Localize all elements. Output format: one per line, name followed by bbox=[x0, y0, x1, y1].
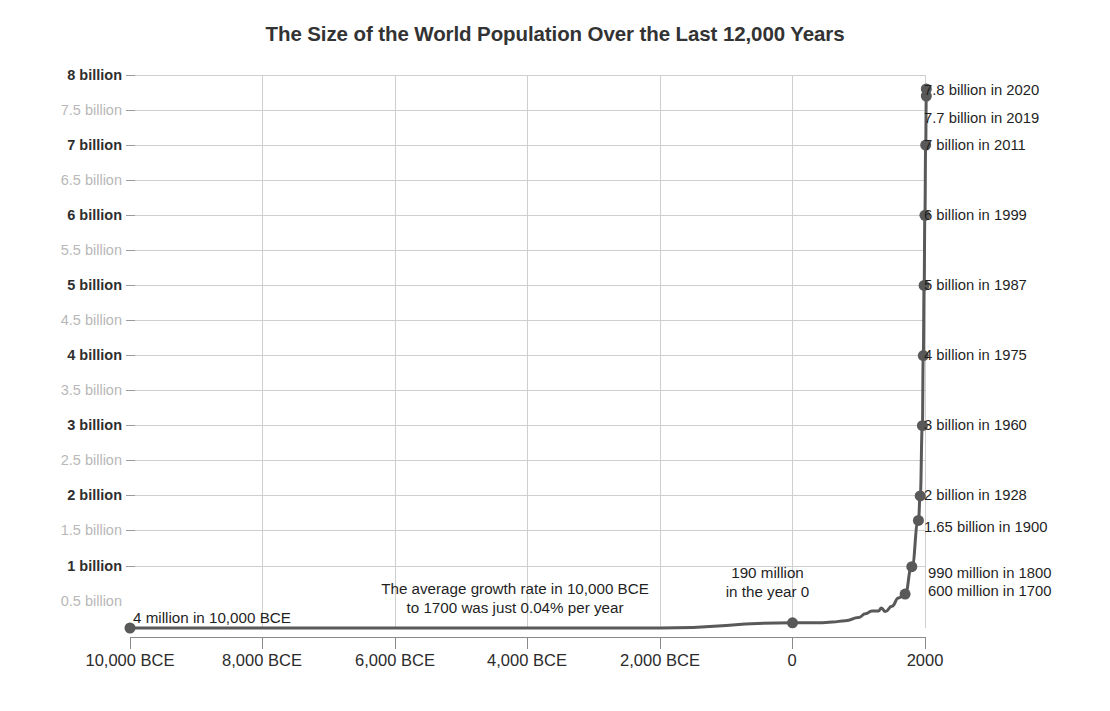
data-point-callout: 2 billion in 1928 bbox=[924, 487, 1027, 503]
data-point-callout: 7.8 billion in 2020 bbox=[924, 82, 1039, 98]
y-axis-tick-label: 6 billion bbox=[2, 208, 122, 223]
data-point-callout: 4 billion in 1975 bbox=[924, 347, 1027, 363]
y-axis-tick-label: 4 billion bbox=[2, 348, 122, 363]
gridline-vertical bbox=[660, 75, 661, 628]
x-axis-tick-label: 6,000 BCE bbox=[355, 651, 435, 669]
gridline-vertical bbox=[527, 75, 528, 628]
year-zero-annotation: 190 million in the year 0 bbox=[680, 563, 855, 601]
data-point-callout: 600 million in 1700 bbox=[928, 583, 1051, 599]
y-axis-tick-label: 3.5 billion bbox=[2, 383, 122, 398]
y-axis-tick-mark bbox=[126, 495, 135, 496]
data-point-callout: 1.65 billion in 1900 bbox=[924, 519, 1047, 535]
y-axis-tick-mark bbox=[126, 110, 135, 111]
data-point-callout: 7 billion in 2011 bbox=[924, 137, 1026, 153]
y-axis-tick-mark bbox=[126, 285, 135, 286]
y-axis-tick-mark bbox=[126, 390, 135, 391]
y-axis-tick-label: 5.5 billion bbox=[2, 243, 122, 258]
x-axis-tick-label: 4,000 BCE bbox=[487, 651, 567, 669]
y-axis-tick-label: 7 billion bbox=[2, 138, 122, 153]
x-axis-tick-mark bbox=[660, 637, 661, 649]
x-axis-tick-mark bbox=[395, 637, 396, 649]
year-zero-line-1: 190 million bbox=[680, 563, 855, 582]
gridline-vertical bbox=[792, 75, 793, 628]
y-axis-tick-label: 2.5 billion bbox=[2, 453, 122, 468]
y-axis-tick-mark bbox=[126, 180, 135, 181]
x-axis-tick-mark bbox=[527, 637, 528, 649]
y-axis-tick-label: 1 billion bbox=[2, 559, 122, 574]
data-point-callout: 5 billion in 1987 bbox=[924, 277, 1027, 293]
y-axis-tick-label: 0.5 billion bbox=[2, 594, 122, 609]
y-axis-tick-label: 7.5 billion bbox=[2, 103, 122, 118]
y-axis-tick-mark bbox=[126, 460, 135, 461]
y-axis-tick-label: 8 billion bbox=[2, 68, 122, 83]
start-point-annotation: 4 million in 10,000 BCE bbox=[133, 608, 291, 627]
y-axis-tick-label: 4.5 billion bbox=[2, 313, 122, 328]
x-axis-tick-label: 10,000 BCE bbox=[86, 651, 175, 669]
x-axis-tick-mark bbox=[792, 637, 793, 649]
population-chart: The Size of the World Population Over th… bbox=[0, 0, 1110, 711]
y-axis-tick-mark bbox=[126, 530, 135, 531]
gridline-vertical bbox=[262, 75, 263, 628]
x-axis-tick-label: 8,000 BCE bbox=[222, 651, 302, 669]
data-point-callout: 990 million in 1800 bbox=[928, 565, 1051, 581]
y-axis-tick-mark bbox=[126, 355, 135, 356]
y-axis-tick-mark bbox=[126, 250, 135, 251]
data-point-callout: 3 billion in 1960 bbox=[924, 417, 1027, 433]
x-axis-tick-mark bbox=[925, 637, 926, 649]
x-axis-tick-mark bbox=[262, 637, 263, 649]
y-axis-labels: 8 billion7.5 billion7 billion6.5 billion… bbox=[0, 0, 122, 711]
data-point-callout: 7.7 billion in 2019 bbox=[924, 110, 1039, 126]
y-axis-tick-mark bbox=[126, 566, 135, 567]
growth-rate-annotation: The average growth rate in 10,000 BCE to… bbox=[300, 579, 730, 617]
gridline-vertical bbox=[395, 75, 396, 628]
growth-rate-line-2: to 1700 was just 0.04% per year bbox=[300, 598, 730, 617]
y-axis-tick-label: 2 billion bbox=[2, 488, 122, 503]
growth-rate-line-1: The average growth rate in 10,000 BCE bbox=[300, 579, 730, 598]
y-axis-tick-label: 1.5 billion bbox=[2, 523, 122, 538]
y-axis-tick-label: 6.5 billion bbox=[2, 173, 122, 188]
chart-title: The Size of the World Population Over th… bbox=[0, 22, 1110, 46]
y-axis-tick-mark bbox=[126, 75, 135, 76]
x-axis-tick-label: 2000 bbox=[907, 651, 944, 669]
x-axis-tick-label: 0 bbox=[787, 651, 796, 669]
y-axis-tick-label: 3 billion bbox=[2, 418, 122, 433]
y-axis-tick-mark bbox=[126, 320, 135, 321]
y-axis-tick-mark bbox=[126, 215, 135, 216]
data-point-callout: 6 billion in 1999 bbox=[924, 207, 1027, 223]
x-axis-tick-mark bbox=[130, 637, 131, 649]
x-axis-tick-label: 2,000 BCE bbox=[620, 651, 700, 669]
year-zero-line-2: in the year 0 bbox=[680, 582, 855, 601]
y-axis-tick-label: 5 billion bbox=[2, 278, 122, 293]
plot-area bbox=[130, 75, 925, 628]
y-axis-tick-mark bbox=[126, 145, 135, 146]
y-axis-tick-mark bbox=[126, 425, 135, 426]
